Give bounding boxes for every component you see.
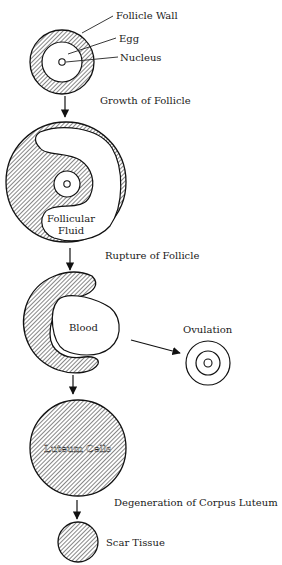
label-luteum-cells: Luteum Cells	[44, 443, 111, 454]
released-egg	[186, 341, 230, 385]
nucleus	[59, 59, 65, 65]
leader-line-follicle-wall	[82, 16, 113, 33]
stage1-follicle: Follicle Wall Egg Nucleus	[30, 10, 178, 94]
released-egg-nucleus	[204, 359, 212, 367]
stage4-corpus-luteum: Luteum Cells	[30, 400, 126, 496]
label-rupture-of-follicle: Rupture of Follicle	[105, 250, 199, 261]
stage2-mature-follicle: Follicular Fluid	[6, 122, 126, 242]
stage5-scar: Scar Tissue	[58, 522, 165, 562]
label-blood: Blood	[69, 322, 99, 333]
label-ovulation: Ovulation	[183, 324, 233, 335]
scar-tissue	[58, 522, 98, 562]
label-egg: Egg	[119, 33, 140, 44]
nucleus-stage2	[64, 181, 70, 187]
label-follicle-wall: Follicle Wall	[116, 10, 178, 21]
label-degeneration: Degeneration of Corpus Luteum	[114, 497, 278, 508]
arrow-ovulation	[131, 340, 180, 353]
label-follicular: Follicular	[47, 213, 95, 224]
label-growth-of-follicle: Growth of Follicle	[100, 95, 191, 106]
stage3-ruptured-follicle: Blood	[24, 272, 120, 373]
label-fluid: Fluid	[58, 225, 85, 236]
label-nucleus: Nucleus	[120, 52, 161, 63]
follicle-cycle-diagram: Follicle Wall Egg Nucleus Growth of Foll…	[0, 0, 282, 565]
label-scar-tissue: Scar Tissue	[106, 537, 165, 548]
